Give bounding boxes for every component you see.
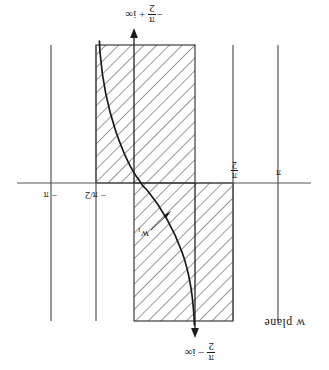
curve-label-text: w — [141, 229, 149, 241]
top-terminal-tail: − i∞ — [185, 347, 205, 358]
arrowhead-down-icon — [130, 28, 138, 38]
top-terminal-denominator: 2 — [207, 341, 215, 353]
top-terminal-fraction: π 2 — [207, 341, 215, 364]
arrowhead-up-icon — [191, 328, 199, 338]
axis-tick-pi-over-2: π 2 — [230, 160, 239, 181]
axis-tick-pi-over-2-fraction: π 2 — [231, 160, 238, 181]
bottom-terminal-fraction: π 2 — [148, 3, 156, 26]
top-terminal-label: π 2 − i∞ — [185, 341, 216, 364]
hatched-band-left — [134, 183, 233, 321]
bottom-terminal-tail: + i∞ — [125, 9, 145, 20]
plane-label: w plane — [264, 317, 305, 329]
axis-tick-pi: π — [276, 168, 281, 178]
plot-canvas — [0, 0, 329, 370]
bottom-terminal-numerator: π — [148, 15, 156, 26]
axis-tick-pi-over-2-numerator: π — [231, 171, 238, 181]
top-terminal-numerator: π — [207, 353, 215, 364]
axis-tick-minus-pi-over-2: − π/2 — [85, 190, 106, 200]
axis-tick-pi-over-2-denominator: 2 — [231, 160, 238, 171]
bottom-terminal-denominator: 2 — [148, 3, 156, 15]
curve-label: w1 — [138, 226, 149, 240]
curve-label-subscript: 1 — [138, 226, 142, 234]
bottom-terminal-label: − π 2 + i∞ — [125, 3, 163, 26]
figure-w-plane: w plane w1 π 2 − i∞ − π 2 + i∞ π π — [0, 0, 329, 370]
bottom-terminal-sign: − — [157, 9, 163, 20]
figure-rotated-canvas: w plane w1 π 2 − i∞ − π 2 + i∞ π π — [0, 0, 329, 370]
axis-tick-minus-pi: − π — [44, 190, 57, 200]
